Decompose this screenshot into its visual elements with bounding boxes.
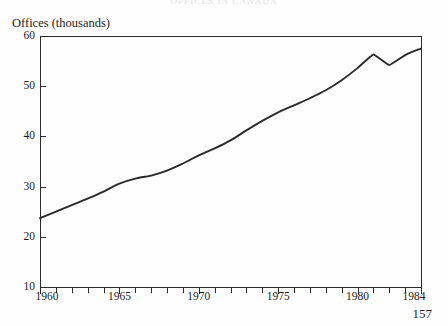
x-tick-label-1975: 1975	[267, 291, 290, 303]
page-number: 157	[413, 306, 433, 322]
x-tick	[135, 287, 136, 293]
y-tick-label-50: 50	[24, 80, 36, 92]
y-tick-label-20: 20	[24, 231, 36, 243]
x-tick	[262, 287, 263, 293]
x-tick-label-1984: 1984	[403, 291, 426, 303]
x-tick	[215, 287, 216, 293]
data-line-offices	[40, 36, 421, 287]
line-chart: 102030405060 196019651970197519801984	[40, 36, 421, 287]
x-tick-label-1970: 1970	[187, 291, 210, 303]
x-tick	[72, 287, 73, 293]
x-tick	[310, 287, 311, 293]
y-tick-label-40: 40	[24, 131, 36, 143]
x-tick	[389, 287, 390, 293]
x-tick	[342, 287, 343, 293]
x-tick	[104, 287, 105, 293]
x-tick	[167, 287, 168, 293]
x-tick	[231, 287, 232, 293]
y-tick-label-60: 60	[24, 30, 36, 42]
x-tick-label-1980: 1980	[346, 291, 369, 303]
x-tick-label-1965: 1965	[108, 291, 131, 303]
x-tick	[294, 287, 295, 293]
x-tick	[326, 287, 327, 293]
x-tick-label-1960: 1960	[36, 291, 59, 303]
running-head: OFFICES IN CANADA	[0, 0, 448, 4]
x-tick	[246, 287, 247, 293]
x-tick	[183, 287, 184, 293]
page-canvas: OFFICES IN CANADA Offices (thousands) 10…	[0, 0, 448, 326]
x-tick	[88, 287, 89, 293]
x-tick	[373, 287, 374, 293]
axis-frame-right	[421, 36, 422, 287]
y-tick-label-30: 30	[24, 181, 36, 193]
y-tick-label-10: 10	[24, 281, 36, 293]
x-tick	[151, 287, 152, 293]
